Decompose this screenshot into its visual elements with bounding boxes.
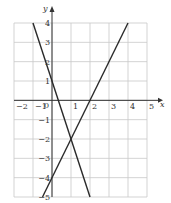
x-tick-label: 2 [92,102,97,111]
y-tick-label: −4 [38,174,50,183]
y-axis-arrow-icon [50,6,55,12]
y-tick-label: −5 [38,193,50,202]
y-tick-label: −2 [38,135,50,144]
x-tick-label: 4 [130,102,135,111]
x-tick-label: 0 [44,101,49,110]
x-tick-label: 1 [73,102,78,111]
y-axis-label: y [42,4,48,13]
x-axis-label: x [160,100,165,109]
x-tick-label: −2 [16,102,28,111]
y-tick-label: 4 [45,19,50,28]
y-tick-label: 1 [45,77,50,86]
y-tick-label: −1 [38,116,50,125]
x-tick-label: 3 [111,102,116,111]
line-graph: −2−10123454321−1−2−3−4−5 x y [0,0,171,203]
y-tick-label: −3 [38,154,50,163]
y-tick-label: 3 [45,38,50,47]
x-tick-label: 5 [149,102,154,111]
y-tick-label: 2 [45,58,50,67]
grid [14,23,147,197]
